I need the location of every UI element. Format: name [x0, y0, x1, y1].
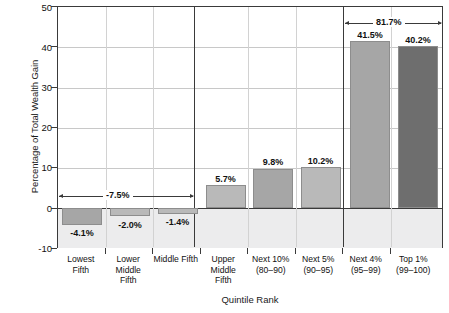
x-category-label-next-4-percent: Next 4% (95–99) — [342, 254, 390, 275]
bar-middle-fifth — [158, 208, 198, 214]
bar-lowest-fifth — [62, 208, 102, 225]
annotation-label-bottom-three: -7.5% — [103, 190, 133, 200]
y-tick-label-40: 40 — [0, 42, 52, 53]
y-tick-label-50: 50 — [0, 2, 52, 13]
value-label-next-10-percent: 9.8% — [253, 157, 293, 167]
value-label-middle-fifth: -1.4% — [158, 217, 198, 227]
bar-top-1-percent — [398, 46, 438, 208]
x-axis-title: Quintile Rank — [57, 294, 443, 305]
bar-upper-middle-fifth — [206, 185, 246, 208]
y-tick-label-30: 30 — [0, 82, 52, 93]
wealth-gain-bar-chart: Percentage of Total Wealth Gain 50 40 30… — [0, 0, 449, 313]
category-gridline-4 — [248, 7, 249, 247]
bar-next-10-percent — [253, 169, 293, 209]
value-label-top-1-percent: 40.2% — [398, 35, 438, 45]
x-category-label-next-10-percent: Next 10% (80–90) — [247, 254, 295, 275]
value-label-lowest-fifth: -4.1% — [62, 228, 102, 238]
value-label-next-4-percent: 41.5% — [350, 30, 390, 40]
annotation-label-top-five: 81.7% — [373, 17, 405, 27]
x-category-label-next-5-percent: Next 5% (90–95) — [295, 254, 343, 275]
bracket-arrow-right-icon-2 — [438, 21, 442, 25]
annotation-bracket-bottom-three: -7.5% — [59, 196, 193, 197]
x-category-label-lowest-fifth: Lowest Fifth — [57, 254, 105, 275]
bracket-arrow-left-icon — [59, 194, 63, 198]
y-tick-label-0: 0 — [0, 203, 52, 214]
group-separator-2 — [343, 7, 344, 247]
plot-area: -4.1% -2.0% -1.4% 5.7% 9.8% 10.2% 41.5% … — [57, 6, 443, 248]
x-category-label-middle-fifth: Middle Fifth — [152, 254, 200, 265]
bar-next-4-percent — [350, 41, 390, 208]
x-category-label-top-1-percent: Top 1% (99–100) — [390, 254, 438, 275]
y-tick-label--10: -10 — [0, 243, 52, 254]
category-gridline-5 — [296, 7, 297, 247]
x-category-label-lower-middle-fifth: Lower Middle Fifth — [105, 254, 153, 286]
category-gridline-1 — [106, 7, 107, 247]
bracket-arrow-right-icon — [190, 194, 194, 198]
value-label-next-5-percent: 10.2% — [301, 156, 341, 166]
bar-lower-middle-fifth — [110, 208, 150, 216]
y-tick-label-20: 20 — [0, 122, 52, 133]
bar-next-5-percent — [301, 167, 341, 208]
category-gridline-2 — [153, 7, 154, 247]
value-label-upper-middle-fifth: 5.7% — [206, 174, 246, 184]
category-gridline-7 — [391, 7, 392, 247]
y-tick-label-10: 10 — [0, 162, 52, 173]
x-category-label-upper-middle-fifth: Upper Middle Fifth — [200, 254, 248, 286]
bracket-arrow-left-icon-2 — [345, 21, 349, 25]
value-label-lower-middle-fifth: -2.0% — [110, 220, 150, 230]
annotation-bracket-top-five: 81.7% — [345, 23, 441, 24]
